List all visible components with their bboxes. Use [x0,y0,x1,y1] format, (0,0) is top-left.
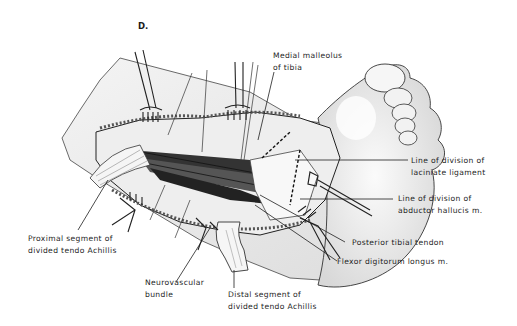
label-flexor-digitorum-longus: Flexor digitorum longus m. [337,256,448,268]
label-posterior-tibial-tendon: Posterior tibial tendon [352,237,444,249]
label-line: Proximal segment of [28,233,117,245]
label-neurovascular-bundle: Neurovascular bundle [145,277,204,301]
label-line: Distal segment of [228,289,317,301]
panel-letter: D. [138,21,148,31]
label-abductor-hallucis: Line of division of abductor hallucis m. [398,193,482,217]
label-line: abductor hallucis m. [398,205,482,217]
label-line: divided tendo Achillis [28,245,117,257]
label-medial-malleolus: Medial malleolus of tibia [273,50,342,74]
label-line: Line of division of [411,155,486,167]
label-line: laciniate ligament [411,167,486,179]
label-line: Flexor digitorum longus m. [337,256,448,268]
label-line: Line of division of [398,193,482,205]
label-line: Medial malleolus [273,50,342,62]
label-line: Posterior tibial tendon [352,237,444,249]
label-line: Neurovascular [145,277,204,289]
label-line: bundle [145,289,204,301]
label-line: divided tendo Achillis [228,301,317,313]
anatomical-illustration: D. Medial malleolus of tibia Line of div… [0,0,517,326]
label-distal-tendo-achillis: Distal segment of divided tendo Achillis [228,289,317,313]
label-proximal-tendo-achillis: Proximal segment of divided tendo Achill… [28,233,117,257]
label-line: of tibia [273,62,342,74]
label-laciniate-ligament: Line of division of laciniate ligament [411,155,486,179]
